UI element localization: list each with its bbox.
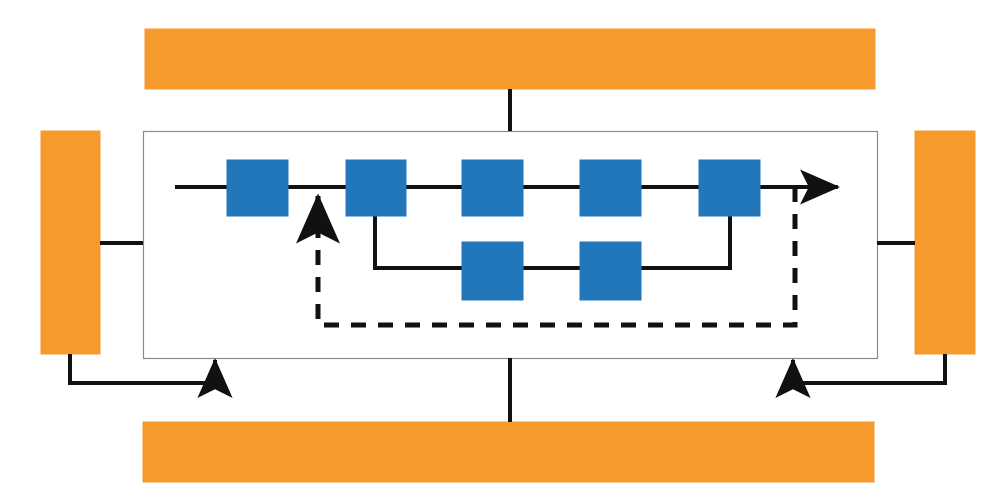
blue-block-block-top-2 <box>346 160 406 216</box>
blue-block-block-top-1 <box>227 160 288 216</box>
blue-block-block-top-5 <box>699 160 760 216</box>
blue-block-block-top-3 <box>462 160 523 216</box>
diagram-svg <box>0 0 1006 501</box>
orange-bar-right-bar <box>915 131 975 354</box>
block-diagram-canvas <box>0 0 1006 501</box>
blue-block-block-bottom-1 <box>462 242 523 300</box>
orange-bar-top-bar <box>145 29 875 89</box>
orange-bar-bottom-bar <box>143 422 874 482</box>
blue-block-block-bottom-2 <box>580 242 641 300</box>
orange-bar-left-bar <box>41 131 100 354</box>
blue-block-block-top-4 <box>580 160 641 216</box>
